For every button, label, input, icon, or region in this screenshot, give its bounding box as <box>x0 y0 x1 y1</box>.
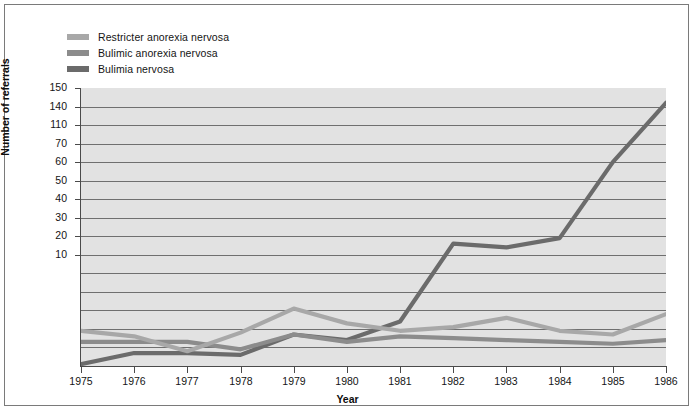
legend-label-bulimia: Bulimia nervosa <box>98 63 174 75</box>
y-axis-tick <box>75 255 81 256</box>
y-axis-tick <box>75 125 81 126</box>
x-axis-tick-label: 1979 <box>272 375 316 387</box>
y-axis-tick <box>75 218 81 219</box>
x-axis-tick-label: 1975 <box>59 375 103 387</box>
y-axis-tick <box>75 162 81 163</box>
x-axis-tick <box>241 367 242 373</box>
x-axis-tick-label: 1985 <box>591 375 635 387</box>
x-axis-tick <box>294 367 295 373</box>
x-axis-tick <box>560 367 561 373</box>
x-axis-tick <box>666 367 667 373</box>
y-axis-tick-label: 30 <box>33 211 67 223</box>
x-axis-tick <box>81 367 82 373</box>
y-axis-tick-label: 40 <box>33 192 67 204</box>
y-axis-tick <box>75 199 81 200</box>
legend-item-bulimic-anorexia-nervosa: Bulimic anorexia nervosa <box>67 45 229 60</box>
x-axis-tick-label: 1976 <box>112 375 156 387</box>
x-axis-tick-label: 1977 <box>165 375 209 387</box>
x-axis-title: Year <box>5 393 690 405</box>
figure-frame: Restricter anorexia nervosa Bulimic anor… <box>4 4 689 406</box>
x-axis-tick <box>347 367 348 373</box>
y-axis-tick-label: 150 <box>33 81 67 93</box>
legend-item-restricter-anorexia-nervosa: Restricter anorexia nervosa <box>67 29 229 44</box>
legend-label-restricter: Restricter anorexia nervosa <box>98 31 229 43</box>
y-axis-tick <box>75 144 81 145</box>
y-axis-tick <box>75 236 81 237</box>
x-axis-tick-label: 1984 <box>538 375 582 387</box>
chart-legend: Restricter anorexia nervosa Bulimic anor… <box>67 29 229 77</box>
y-axis-tick-label: 20 <box>33 229 67 241</box>
x-axis-tick <box>400 367 401 373</box>
x-axis-tick <box>187 367 188 373</box>
x-axis-tick-label: 1981 <box>378 375 422 387</box>
y-axis-tick <box>75 107 81 108</box>
x-axis-tick-label: 1980 <box>325 375 369 387</box>
legend-item-bulimia-nervosa: Bulimia nervosa <box>67 61 229 76</box>
x-axis-tick-label: 1982 <box>431 375 475 387</box>
x-axis-tick <box>506 367 507 373</box>
legend-swatch-restricter <box>67 34 89 40</box>
legend-swatch-bulimic-anorexia <box>67 50 89 56</box>
y-axis-line <box>80 88 81 367</box>
x-axis-tick-label: 1983 <box>484 375 528 387</box>
legend-swatch-bulimia <box>67 66 89 72</box>
x-axis-tick <box>613 367 614 373</box>
y-axis-tick-label: 50 <box>33 174 67 186</box>
y-axis-tick-label: 60 <box>33 155 67 167</box>
x-axis-tick-label: 1978 <box>219 375 263 387</box>
series-lines <box>81 88 666 366</box>
x-axis-tick <box>453 367 454 373</box>
y-axis-tick-label: 70 <box>33 137 67 149</box>
y-axis-tick <box>75 181 81 182</box>
x-axis-tick-label: 1986 <box>644 375 688 387</box>
series-line <box>81 103 666 364</box>
y-axis-tick-label: 10 <box>33 248 67 260</box>
y-axis-tick <box>75 88 81 89</box>
x-axis-tick <box>134 367 135 373</box>
y-axis-tick-label: 110 <box>33 118 67 130</box>
x-axis-line <box>80 366 667 367</box>
y-axis-tick-label: 140 <box>33 100 67 112</box>
legend-label-bulimic-anorexia: Bulimic anorexia nervosa <box>98 47 218 59</box>
y-axis-title: Number of referrals <box>0 27 11 187</box>
plot-area <box>81 88 666 366</box>
